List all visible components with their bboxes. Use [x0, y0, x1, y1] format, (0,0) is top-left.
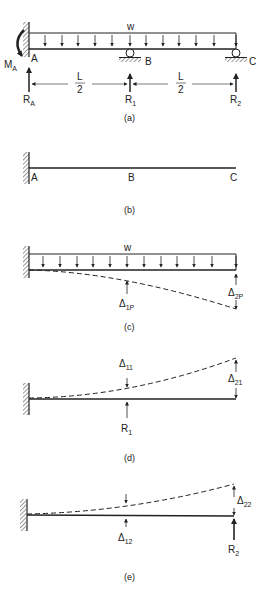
- deflection-label-11: Δ11: [119, 358, 133, 371]
- panel-d: Δ11 Δ21 R1 (d): [23, 358, 243, 463]
- deflected-shape: [27, 484, 234, 514]
- deflection-label-12: Δ12: [118, 532, 133, 545]
- load-label: w: [123, 242, 132, 253]
- deflection-label-1p: Δ1P: [119, 298, 135, 311]
- caption-d: (d): [124, 453, 135, 463]
- reaction-label-r2: R2: [228, 544, 239, 557]
- caption-c: (c): [124, 322, 135, 332]
- fixed-support-a: [23, 22, 29, 57]
- point-label-c: C: [230, 172, 237, 183]
- reaction-label-ra: RA: [23, 94, 35, 107]
- moment-label: MA: [4, 59, 17, 72]
- point-label-b: B: [145, 56, 152, 67]
- point-label-b: B: [128, 172, 135, 183]
- roller-support-c: [232, 49, 240, 57]
- span-numerator-2: L: [178, 71, 184, 82]
- fixed-support: [23, 246, 29, 278]
- panel-e: Δ12 Δ22 R2 (e): [20, 484, 252, 582]
- point-label-a: A: [31, 172, 38, 183]
- panel-c: w Δ1P Δ2P (c): [23, 242, 244, 332]
- fixed-support: [20, 499, 26, 531]
- caption-e: (e): [124, 572, 135, 582]
- beam: [27, 515, 234, 516]
- fixed-support: [23, 383, 29, 415]
- load-label: w: [126, 21, 135, 32]
- caption-b: (b): [124, 205, 135, 215]
- span-numerator-1: L: [77, 71, 83, 82]
- fixed-support: [23, 152, 29, 184]
- deflection-label-22: Δ22: [237, 495, 252, 508]
- load-arrows: [43, 256, 236, 267]
- load-arrows: [45, 35, 236, 46]
- roller-support-b: [126, 49, 134, 57]
- deflection-label-2p: Δ2P: [228, 287, 244, 300]
- panel-a: w MA A B C RA R1 R2 L 2 L 2 (a): [4, 21, 256, 123]
- reaction-label-r1: R1: [125, 94, 136, 107]
- deflection-label-21: Δ21: [228, 373, 243, 386]
- reaction-label-r2: R2: [230, 94, 241, 107]
- point-label-c: C: [249, 56, 256, 67]
- span-denominator-2: 2: [178, 84, 184, 95]
- span-denominator-1: 2: [77, 84, 83, 95]
- caption-a: (a): [124, 113, 135, 123]
- figure-canvas: w MA A B C RA R1 R2 L 2 L 2 (a): [0, 0, 265, 601]
- point-label-a: A: [31, 53, 38, 64]
- panel-b: A B C (b): [23, 152, 237, 215]
- reaction-label-r1: R1: [121, 423, 132, 436]
